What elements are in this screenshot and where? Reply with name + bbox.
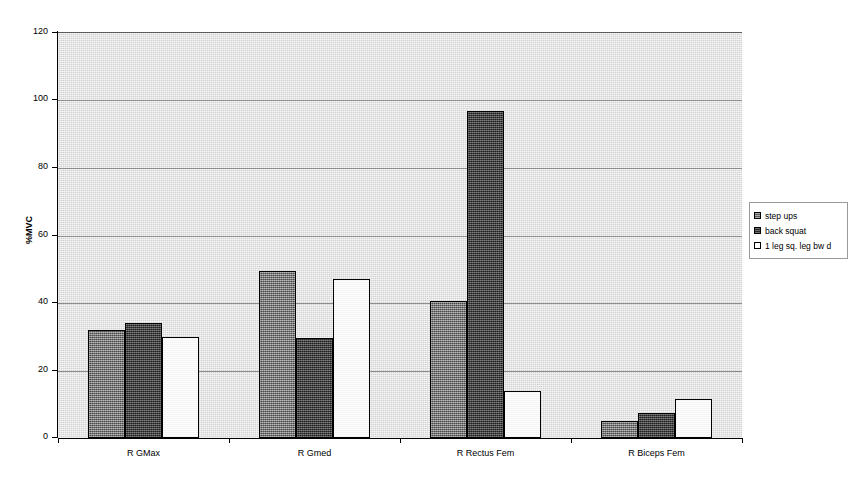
y-axis-label-wrap: 40 — [0, 297, 48, 306]
legend-item-label: step ups — [765, 211, 797, 221]
gridline — [58, 168, 742, 169]
x-axis-label: R Rectus Fem — [400, 448, 571, 458]
legend-item[interactable]: back squat — [754, 223, 843, 238]
bar — [296, 338, 333, 438]
y-axis-label: 0 — [8, 432, 48, 441]
legend-item-label: 1 leg sq. leg bw d — [765, 241, 831, 251]
x-axis-tick — [229, 438, 230, 443]
legend-item[interactable]: 1 leg sq. leg bw d — [754, 238, 843, 253]
bar-chart: %MVC 020406080100120 R GMaxR GmedR Rectu… — [0, 0, 859, 491]
bar — [333, 279, 370, 438]
chart-title — [0, 0, 700, 1]
y-axis-label-wrap: 120 — [0, 27, 48, 36]
bar — [259, 271, 296, 438]
y-axis-label-wrap: 0 — [0, 432, 48, 441]
legend-item[interactable]: step ups — [754, 208, 843, 223]
bar — [430, 301, 467, 438]
x-axis-tick — [400, 438, 401, 443]
gridline — [58, 236, 742, 237]
bar — [504, 391, 541, 438]
y-axis-label: 40 — [8, 297, 48, 306]
bar — [467, 111, 504, 438]
bar — [88, 330, 125, 438]
gridline — [58, 100, 742, 101]
y-axis-label-wrap: 80 — [0, 162, 48, 171]
y-axis-label: 120 — [8, 27, 48, 36]
legend-swatch-icon — [754, 242, 761, 249]
bar — [125, 323, 162, 438]
y-axis-label: 100 — [8, 94, 48, 103]
x-axis-label: R Gmed — [229, 448, 400, 458]
y-axis-label-wrap: 100 — [0, 94, 48, 103]
bar — [638, 413, 675, 438]
bar — [162, 337, 199, 438]
y-axis-label: 60 — [8, 230, 48, 239]
x-axis-tick — [571, 438, 572, 443]
y-axis-label-wrap: 20 — [0, 365, 48, 374]
bar — [601, 421, 638, 438]
y-axis-label-wrap: 60 — [0, 230, 48, 239]
x-axis-label: R Biceps Fem — [571, 448, 742, 458]
legend: step upsback squat1 leg sq. leg bw d — [749, 202, 848, 259]
legend-item-label: back squat — [765, 226, 806, 236]
y-axis-label: 80 — [8, 162, 48, 171]
x-axis-label: R GMax — [58, 448, 229, 458]
x-axis-tick — [742, 438, 743, 443]
bar — [675, 399, 712, 438]
legend-swatch-icon — [754, 227, 761, 234]
y-axis-label: 20 — [8, 365, 48, 374]
plot-area — [58, 32, 742, 439]
x-axis-tick — [58, 438, 59, 443]
gridline — [58, 303, 742, 304]
legend-swatch-icon — [754, 212, 761, 219]
